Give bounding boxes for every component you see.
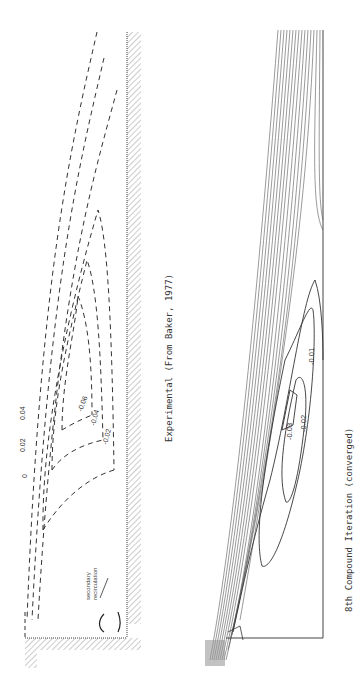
wall-hatch	[127, 32, 141, 314]
caption-computed: 8th Compound Iteration (converged)	[344, 428, 354, 612]
computed-panel: -0.03 -0.02 -0.01	[205, 30, 323, 666]
svg-text:recirculation: recirculation	[92, 568, 98, 600]
label-0.04: 0.04	[19, 406, 26, 420]
label-neg-0.03: -0.03	[285, 423, 294, 440]
caption-experimental: Experimental (From Baker, 1977)	[164, 274, 174, 442]
svg-text:secondary: secondary	[85, 572, 91, 600]
label-neg-0.06: -0.06	[76, 395, 88, 412]
figure: 0 0.02 0.04 -0.06 -0.04 -0.02 secondary …	[0, 0, 358, 696]
label-neg-0.02-computed: -0.02	[299, 415, 308, 432]
label-0.02: 0.02	[19, 438, 26, 452]
label-neg-0.02: -0.02	[101, 428, 112, 445]
label-0: 0	[21, 474, 28, 478]
secondary-recirculation-annotation: secondary recirculation	[85, 568, 120, 632]
label-neg-0.01: -0.01	[307, 348, 316, 365]
experimental-panel: 0 0.02 0.04 -0.06 -0.04 -0.02 secondary …	[19, 32, 141, 668]
label-neg-0.04: -0.04	[89, 409, 100, 426]
